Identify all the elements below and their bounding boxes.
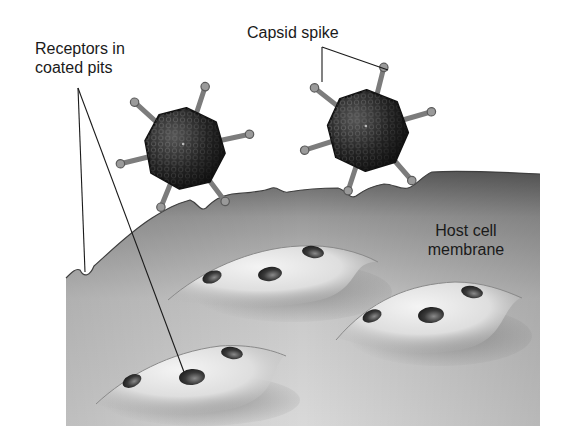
host-cell-membrane-label: Host cell membrane — [412, 221, 520, 259]
host-label-line2: membrane — [412, 240, 520, 259]
capsid-spike-label: Capsid spike — [247, 23, 339, 42]
receptors-label-line2: coated pits — [35, 58, 125, 77]
capsid-spike-leader-lines — [322, 47, 388, 82]
receptors-label: Receptors in coated pits — [35, 39, 125, 77]
host-label-line1: Host cell — [412, 221, 520, 240]
receptors-label-line1: Receptors in — [35, 39, 125, 58]
virus-right — [298, 61, 439, 196]
